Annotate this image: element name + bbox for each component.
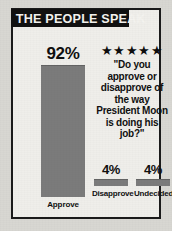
bar-column-disapprove: 4% Disapprove: [92, 163, 130, 198]
bar-label-disapprove: Disapprove: [92, 189, 130, 198]
infographic-frame: 92% Approve ★★★★★ "Do you approve or dis…: [11, 8, 161, 219]
small-bar-columns: 4% Disapprove 4% Undecided: [92, 163, 172, 198]
bar-label-undecided: Undecided: [134, 189, 172, 198]
bar-disapprove: [94, 179, 128, 186]
five-stars-icon: ★★★★★: [92, 44, 172, 57]
page-title: THE PEOPLE SPEAK: [11, 11, 146, 26]
bar-column-undecided: 4% Undecided: [134, 163, 172, 198]
bar-value-undecided: 4%: [134, 163, 172, 177]
bar-column-approve: 92% Approve: [36, 45, 90, 209]
poll-question-text: "Do you approve or disapprove of the way…: [94, 59, 170, 140]
poll-question-block: ★★★★★ "Do you approve or disapprove of t…: [92, 44, 172, 140]
chart-content: 92% Approve ★★★★★ "Do you approve or dis…: [26, 39, 172, 227]
newspaper-clipping: 92% Approve ★★★★★ "Do you approve or dis…: [0, 0, 172, 231]
bar-value-disapprove: 4%: [92, 163, 130, 177]
bar-label-approve: Approve: [36, 200, 90, 209]
title-banner: THE PEOPLE SPEAK: [11, 9, 129, 27]
bar-value-approve: 92%: [36, 45, 90, 62]
bar-undecided: [136, 179, 170, 186]
bar-approve: [41, 65, 85, 197]
